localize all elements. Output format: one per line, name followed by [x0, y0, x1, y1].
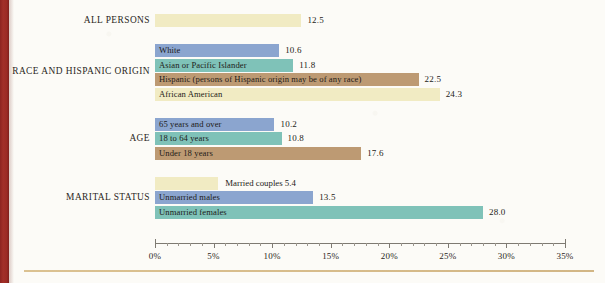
x-tick-label: 10% [264, 251, 281, 261]
bar-value: 13.5 [319, 192, 336, 202]
bar-row: 18 to 64 years10.8 [0, 132, 605, 145]
x-tick-label: 5% [207, 251, 219, 261]
tick-major [331, 243, 332, 248]
bar-row: Under 18 years17.6 [0, 147, 605, 160]
tick-minor [342, 243, 343, 246]
bar-outside-label: Married couples 5.4 [225, 178, 296, 188]
tick-minor [260, 243, 261, 246]
bar-row: Asian or Pacific Islander11.8 [0, 59, 605, 72]
tick-minor [190, 243, 191, 246]
bar-row: Unmarried females28.0 [0, 206, 605, 219]
bar-all-persons[interactable] [155, 14, 301, 27]
tick-minor [366, 243, 367, 246]
x-axis: 0%5%10%15%20%25%30%35% [155, 243, 565, 269]
bar-value: 10.2 [280, 119, 297, 129]
tick-major [214, 243, 215, 248]
tick-minor [378, 243, 379, 246]
chart-group: MARITAL STATUSMarried couples 5.4Unmarri… [0, 177, 605, 219]
x-axis-line [155, 243, 565, 244]
bar-row: Hispanic (persons of Hispanic origin may… [0, 73, 605, 86]
chart-group: ALL PERSONS12.5 [0, 14, 605, 27]
bar-label: Unmarried males [159, 192, 220, 202]
tick-minor [178, 243, 179, 246]
tick-major [389, 243, 390, 248]
bar-value: 11.8 [299, 60, 315, 70]
chart-group: RACE AND HISPANIC ORIGINWhite10.6Asian o… [0, 44, 605, 101]
tick-minor [542, 243, 543, 246]
tick-minor [284, 243, 285, 246]
bar-row: 65 years and over10.2 [0, 118, 605, 131]
tick-minor [413, 243, 414, 246]
tick-minor [249, 243, 250, 246]
x-tick-label: 35% [556, 251, 573, 261]
bar-label: African American [159, 89, 222, 99]
bar-row: Married couples 5.4 [0, 177, 605, 190]
tick-minor [553, 243, 554, 246]
axis-end-cap [155, 239, 156, 244]
bar-value: 12.5 [307, 15, 324, 25]
tick-minor [424, 243, 425, 246]
bar-label: Hispanic (persons of Hispanic origin may… [159, 74, 361, 84]
tick-major [272, 243, 273, 248]
chart-group: AGE65 years and over10.218 to 64 years10… [0, 118, 605, 160]
bar-value: 10.8 [288, 133, 305, 143]
bar-label: Under 18 years [159, 148, 213, 158]
x-tick-label: 25% [439, 251, 456, 261]
bar-row: 12.5 [0, 14, 605, 27]
tick-minor [530, 243, 531, 246]
x-tick-label: 15% [322, 251, 339, 261]
bar-value: 28.0 [489, 207, 506, 217]
bar-label: Unmarried females [159, 207, 227, 217]
tick-minor [436, 243, 437, 246]
bar-label: 65 years and over [159, 119, 222, 129]
tick-major [448, 243, 449, 248]
tick-minor [296, 243, 297, 246]
tick-minor [354, 243, 355, 246]
bar-label: White [159, 45, 181, 55]
tick-minor [401, 243, 402, 246]
tick-major [506, 243, 507, 248]
bar-value: 24.3 [446, 89, 463, 99]
axis-end-cap [565, 239, 566, 244]
tick-minor [483, 243, 484, 246]
x-tick-label: 20% [381, 251, 398, 261]
tick-minor [460, 243, 461, 246]
tick-minor [319, 243, 320, 246]
tick-minor [518, 243, 519, 246]
bar-label: 18 to 64 years [159, 133, 209, 143]
tick-minor [167, 243, 168, 246]
bar-value: 22.5 [425, 74, 442, 84]
bar-label: Asian or Pacific Islander [159, 60, 247, 70]
bar-chart: ALL PERSONS12.5RACE AND HISPANIC ORIGINW… [0, 0, 605, 283]
bar-value: 10.6 [285, 45, 302, 55]
x-tick-label: 30% [498, 251, 515, 261]
tick-minor [471, 243, 472, 246]
bar-value: 17.6 [367, 148, 384, 158]
tick-minor [307, 243, 308, 246]
tick-minor [237, 243, 238, 246]
tick-minor [202, 243, 203, 246]
bar-married-couples[interactable] [155, 177, 218, 190]
bar-row: Unmarried males13.5 [0, 191, 605, 204]
tick-minor [225, 243, 226, 246]
bar-row: African American24.3 [0, 88, 605, 101]
bar-row: White10.6 [0, 44, 605, 57]
x-tick-label: 0% [149, 251, 161, 261]
tick-minor [495, 243, 496, 246]
